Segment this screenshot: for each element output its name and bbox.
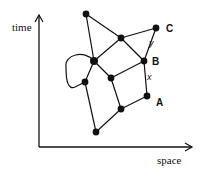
node-n9 bbox=[118, 106, 125, 113]
time-axis-label: time bbox=[12, 21, 32, 33]
edge-A-n9 bbox=[121, 96, 147, 109]
node-n7 bbox=[82, 79, 89, 86]
node-n10 bbox=[93, 129, 100, 136]
edge-n7-n10 bbox=[85, 82, 96, 132]
edge-n3-hub bbox=[94, 38, 121, 61]
node-B bbox=[141, 58, 148, 65]
space-axis-label: space bbox=[157, 154, 182, 166]
node-C bbox=[153, 25, 160, 32]
node-n6 bbox=[108, 75, 115, 82]
node-label-C: C bbox=[166, 23, 173, 34]
node-n3 bbox=[118, 35, 125, 42]
edge-n6-n9 bbox=[111, 78, 121, 109]
edge-B-n6 bbox=[111, 61, 144, 78]
edge-n1-n3 bbox=[86, 14, 121, 38]
edge-layer bbox=[85, 14, 156, 132]
node-n1 bbox=[83, 11, 90, 18]
node-label-layer: CBA bbox=[152, 23, 173, 108]
edge-n1-hub bbox=[86, 14, 94, 61]
spacetime-diagram: time space yx CBA bbox=[0, 0, 205, 173]
edge-label-y: y bbox=[148, 38, 154, 48]
node-hub bbox=[90, 57, 98, 65]
node-label-A: A bbox=[156, 97, 163, 108]
node-A bbox=[144, 93, 151, 100]
edge-n9-n10 bbox=[96, 109, 121, 132]
node-label-B: B bbox=[152, 56, 159, 67]
edge-label-x: x bbox=[146, 72, 152, 82]
edge-n3-C bbox=[121, 28, 156, 38]
edge-n3-B bbox=[121, 38, 144, 61]
